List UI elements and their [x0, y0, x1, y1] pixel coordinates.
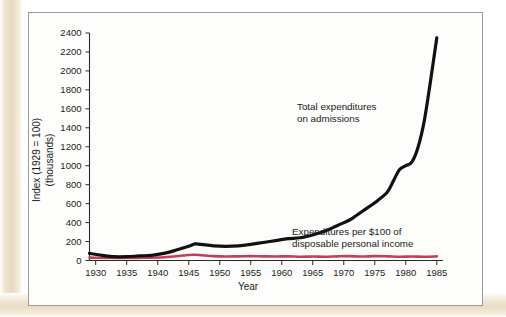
- y-axis-title-line2: (thousands): [44, 134, 55, 187]
- y-tick-label: 2200: [60, 46, 81, 57]
- y-tick-label: 600: [66, 198, 82, 209]
- annotation-income-line2: disposable personal income: [292, 238, 414, 249]
- x-tick-label: 1985: [426, 267, 447, 278]
- annotation-total-line1: Total expenditures: [297, 101, 377, 112]
- y-tick-label: 1000: [60, 160, 81, 171]
- y-tick-label: 800: [66, 179, 82, 190]
- x-axis-ticks: 1930193519401945195019551960196519701975…: [85, 261, 447, 278]
- chart-canvas: 0200400600800100012001400160018002000220…: [0, 0, 506, 317]
- y-tick-label: 0: [76, 255, 81, 266]
- x-tick-label: 1955: [240, 267, 261, 278]
- x-tick-label: 1945: [178, 267, 199, 278]
- x-tick-label: 1960: [271, 267, 292, 278]
- y-axis-title-line1: Index (1929 = 100): [31, 118, 42, 202]
- x-tick-label: 1965: [302, 267, 323, 278]
- y-axis-ticks: 0200400600800100012001400160018002000220…: [60, 27, 89, 266]
- x-tick-label: 1950: [209, 267, 230, 278]
- x-tick-label: 1935: [116, 267, 137, 278]
- x-tick-label: 1970: [333, 267, 354, 278]
- annotation-total-line2: on admissions: [297, 113, 360, 124]
- y-tick-label: 400: [66, 217, 82, 228]
- y-tick-label: 2400: [60, 27, 81, 38]
- figure-page: 0200400600800100012001400160018002000220…: [0, 0, 506, 317]
- y-tick-label: 2000: [60, 65, 81, 76]
- x-axis-title: Year: [238, 281, 259, 292]
- x-tick-label: 1930: [85, 267, 106, 278]
- series-line-total-expenditures: [90, 38, 437, 257]
- y-tick-label: 200: [66, 236, 82, 247]
- x-tick-label: 1975: [364, 267, 385, 278]
- annotation-per-100-income: Expenditures per $100 of disposable pers…: [292, 226, 414, 249]
- annotation-income-line1: Expenditures per $100 of: [292, 226, 402, 237]
- x-tick-label: 1940: [147, 267, 168, 278]
- y-tick-label: 1400: [60, 122, 81, 133]
- annotation-total-expenditures: Total expenditures on admissions: [297, 101, 377, 124]
- line-chart: 0200400600800100012001400160018002000220…: [0, 0, 506, 317]
- x-tick-label: 1980: [395, 267, 416, 278]
- y-tick-label: 1800: [60, 84, 81, 95]
- y-tick-label: 1600: [60, 103, 81, 114]
- y-tick-label: 1200: [60, 141, 81, 152]
